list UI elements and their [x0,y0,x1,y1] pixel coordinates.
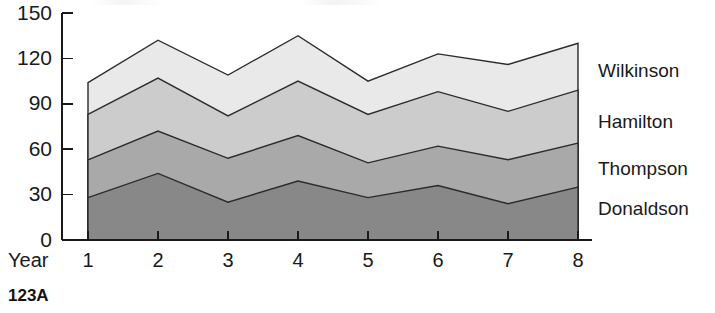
y-tick-label: 0 [40,228,52,251]
y-tick-label: 90 [29,91,52,114]
legend-group: WilkinsonHamiltonThompsonDonaldson [598,60,689,219]
x-tick-label: 3 [222,249,233,271]
x-tick-label: 7 [502,249,513,271]
y-tick-label: 30 [29,182,52,205]
x-tick-label: 5 [362,249,373,271]
y-tick-label: 60 [29,137,52,160]
legend-label-hamilton: Hamilton [598,111,673,132]
x-axis-title-group: Year [8,249,49,271]
x-tick-label: 4 [292,249,303,271]
area-bands-group [88,36,578,240]
legend-label-wilkinson: Wilkinson [598,60,679,81]
x-axis-title: Year [8,249,49,271]
y-tick-label: 120 [17,46,52,69]
legend-label-donaldson: Donaldson [598,198,689,219]
chart-canvas: 1501209060300 12345678 Year WilkinsonHam… [0,0,715,313]
y-tick-group: 1501209060300 [17,1,73,251]
x-tick-label: 2 [152,249,163,271]
x-tick-label: 6 [432,249,443,271]
x-tick-label: 8 [572,249,583,271]
y-tick-label: 150 [17,1,52,24]
x-tick-label: 1 [82,249,93,271]
figure-caption: 123A [8,286,49,306]
legend-label-thompson: Thompson [598,158,688,179]
stacked-area-chart: 1501209060300 12345678 Year WilkinsonHam… [0,0,715,313]
